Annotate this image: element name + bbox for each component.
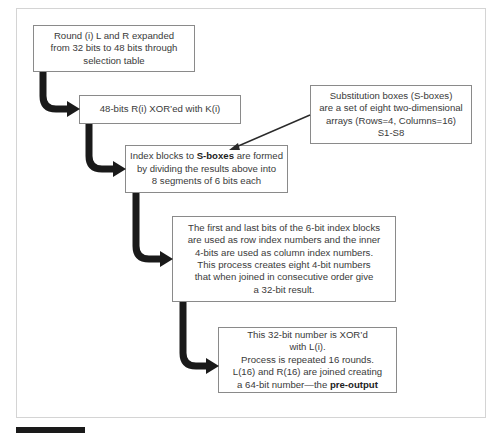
flow-arrow-4 bbox=[183, 302, 207, 366]
flow-arrow-2 bbox=[89, 124, 114, 169]
arrowhead-4 bbox=[206, 358, 219, 374]
arrowhead-2 bbox=[113, 161, 126, 177]
sbox-pointer-arrowhead bbox=[229, 143, 240, 150]
sbox-pointer-line bbox=[236, 115, 310, 147]
arrowhead-1 bbox=[67, 101, 80, 117]
flow-arrow-1 bbox=[43, 72, 68, 109]
arrowhead-3 bbox=[160, 251, 173, 267]
flow-arrow-3 bbox=[136, 193, 161, 259]
figure-label-tab bbox=[16, 427, 85, 433]
